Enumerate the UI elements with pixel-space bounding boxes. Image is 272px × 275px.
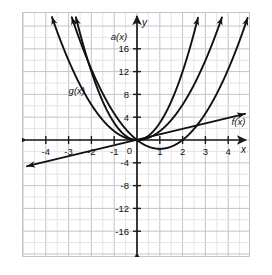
x-axis-name: x — [240, 144, 247, 155]
y-tick-label: -12 — [115, 203, 129, 214]
y-tick-label: 16 — [118, 43, 129, 54]
series-label-fx: f(x) — [232, 116, 246, 127]
x-tick-label: -1 — [110, 146, 118, 157]
y-tick-label: 4 — [124, 112, 129, 123]
y-tick-label: 8 — [124, 89, 129, 100]
series-label-ax: a(x) — [111, 31, 127, 42]
y-tick-label: -4 — [121, 157, 129, 168]
curve-arrowhead — [217, 16, 225, 25]
coordinate-plane-svg: -4-3-2-11234161284-4-8-12-160xyg(x)a(x)f… — [22, 12, 250, 257]
graph-plot-area: -4-3-2-11234161284-4-8-12-160xyg(x)a(x)f… — [22, 12, 250, 257]
x-tick-label: -4 — [42, 146, 50, 157]
y-tick-label: 12 — [118, 66, 129, 77]
y-axis-name: y — [141, 17, 148, 28]
curve-arrowhead — [49, 16, 57, 25]
x-tick-label: 3 — [203, 146, 208, 157]
series-label-gx: g(x) — [69, 85, 85, 96]
x-tick-label: 2 — [180, 146, 185, 157]
chart-container: -4-3-2-11234161284-4-8-12-160xyg(x)a(x)f… — [0, 0, 272, 275]
y-tick-label: -16 — [115, 226, 129, 237]
axes — [26, 16, 246, 253]
origin-label: 0 — [127, 145, 132, 156]
x-tick-label: 1 — [157, 146, 162, 157]
y-tick-label: -8 — [121, 180, 129, 191]
x-tick-label: 4 — [226, 146, 231, 157]
